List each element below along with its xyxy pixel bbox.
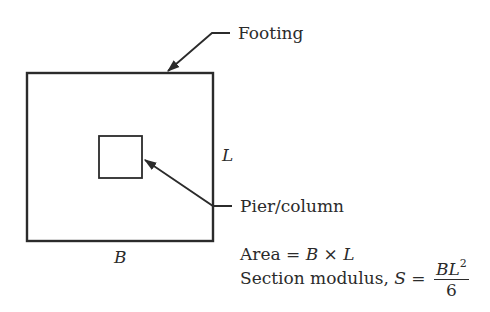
fraction-numerator: BL2: [434, 258, 469, 280]
pier-column-label: Pier/column: [240, 198, 344, 215]
exponent: 2: [460, 257, 467, 270]
section-fraction: BL26: [434, 258, 469, 299]
section-modulus-formula: Section modulus, S = BL26: [240, 258, 469, 299]
dimension-l-label: L: [222, 147, 233, 164]
section-prefix: Section modulus,: [240, 268, 394, 288]
section-eq: =: [406, 268, 431, 288]
footing-leader-line: [168, 33, 230, 71]
pier-outline: [99, 136, 142, 178]
footing-label: Footing: [238, 25, 303, 42]
pier-leader-line: [145, 160, 232, 206]
numerator-text: BL: [436, 259, 460, 279]
fraction-denominator: 6: [434, 280, 469, 299]
footing-outline: [27, 73, 213, 241]
dimension-b-label: B: [114, 249, 127, 266]
section-s: S: [394, 268, 406, 288]
